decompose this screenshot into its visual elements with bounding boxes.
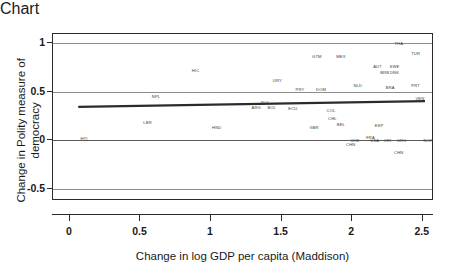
x-tick-mark (351, 214, 352, 221)
data-point-label: PRT (411, 82, 420, 87)
data-point-label: CHL (328, 115, 337, 120)
data-point-label: BRA (386, 84, 395, 89)
data-point-label: COL (327, 108, 336, 113)
x-axis-label: Change in log GDP per capita (Maddison) (52, 250, 433, 262)
x-tick-mark (210, 214, 211, 221)
plot-area: HTILBRNPLHICHNDSLVARGBOLURYPRYECUGTMDOMM… (52, 33, 433, 200)
gridline-y-neg0_5 (53, 189, 432, 190)
data-point-label: VEN (415, 96, 424, 101)
scatter-chart-figure: Change in Polity measure of democracy 10… (0, 18, 460, 274)
x-tick-label: 2.5 (414, 225, 429, 237)
data-point-label: LBR (143, 119, 151, 124)
gridline-y-1 (53, 43, 432, 44)
data-point-label: GBR (309, 124, 318, 129)
data-point-label: TUR (411, 50, 420, 55)
x-tick-label: 0.5 (132, 225, 147, 237)
data-point-label: AUT (373, 64, 382, 69)
x-tick-mark (69, 214, 70, 221)
y-tick-label: 0.5 (30, 85, 45, 97)
data-point-label: CRI (384, 138, 392, 143)
y-tick-label: 1 (39, 36, 45, 48)
x-axis-line (52, 214, 433, 215)
data-point-label: SWE (390, 64, 400, 69)
x-tick-label: 2 (348, 225, 354, 237)
data-point-label: ARG (252, 105, 261, 110)
data-point-label: THA (394, 40, 403, 45)
data-point-label: HIC (192, 68, 200, 73)
x-tick-mark (139, 214, 140, 221)
data-point-label: GTM (312, 54, 322, 59)
data-point-label: BRB (380, 70, 389, 75)
data-point-label: CHN (346, 142, 355, 147)
data-point-label: BOL (267, 105, 276, 110)
x-tick-label: 1.5 (273, 225, 288, 237)
data-point-label: NPL (152, 93, 160, 98)
data-point-label: NOR (424, 138, 434, 143)
gridline-y-0_5 (53, 92, 432, 93)
data-point-label: HND (212, 124, 221, 129)
x-tick-mark (422, 214, 423, 221)
data-point-label: URY (273, 77, 282, 82)
trendline (53, 34, 432, 199)
data-point-label: ESP (375, 122, 384, 127)
data-point-label: HTI (81, 136, 88, 141)
data-point-label: MEX (336, 54, 345, 59)
data-point-label: GRC (397, 138, 407, 143)
y-tick-label: -0.5 (27, 182, 45, 194)
x-tick-label: 1 (207, 225, 213, 237)
x-tick-label: 0 (66, 225, 72, 237)
data-point-label: DOM (316, 86, 326, 91)
data-point-label: BEL (337, 121, 345, 126)
data-point-label: USA (370, 138, 379, 143)
x-tick-mark (281, 214, 282, 221)
data-point-label: ECU (288, 106, 297, 111)
y-axis: 10.50-0.5 (0, 18, 52, 274)
data-point-label: DNK (390, 70, 399, 75)
data-point-label: NLD (353, 82, 362, 87)
y-tick-label: 0 (39, 133, 45, 145)
data-point-label: CHN (394, 150, 403, 155)
data-point-label: PRY (296, 86, 305, 91)
